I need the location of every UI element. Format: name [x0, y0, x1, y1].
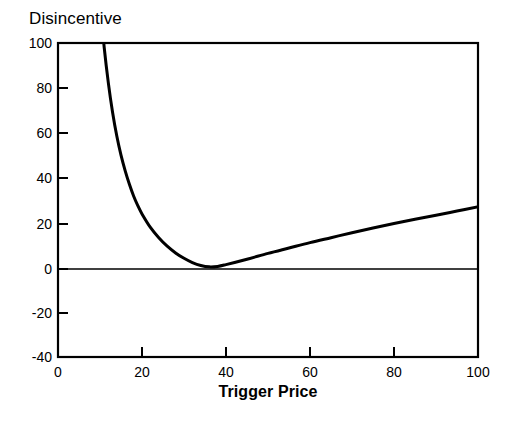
x-tick-label: 100	[466, 364, 490, 380]
y-tick-label: 20	[36, 216, 52, 232]
x-tick-label: 60	[302, 364, 318, 380]
y-tick-label: 60	[36, 125, 52, 141]
y-tick-label: 100	[29, 35, 53, 51]
y-tick-label: 0	[44, 261, 52, 277]
y-tick-label: 80	[36, 80, 52, 96]
x-axis-title-text: Trigger Price	[218, 383, 317, 401]
plot-area: 100 80 60 40 20 0 -20 -40 0 20 40 60 80 …	[0, 0, 512, 426]
y-tick-label: -40	[32, 349, 52, 365]
y-axis-tick-labels: 100 80 60 40 20 0 -20 -40	[29, 35, 53, 365]
plot-frame	[58, 43, 478, 357]
x-tick-label: 80	[386, 364, 402, 380]
y-tick-label: 40	[36, 170, 52, 186]
x-tick-label: 40	[218, 364, 234, 380]
chart-figure: Disincentive 100 80	[0, 0, 512, 426]
y-tick-label: -20	[32, 305, 52, 321]
x-axis-title: Trigger Price	[0, 383, 512, 401]
x-tick-label: 0	[54, 364, 62, 380]
x-tick-label: 20	[134, 364, 150, 380]
x-axis-tick-labels: 0 20 40 60 80 100	[54, 364, 490, 380]
